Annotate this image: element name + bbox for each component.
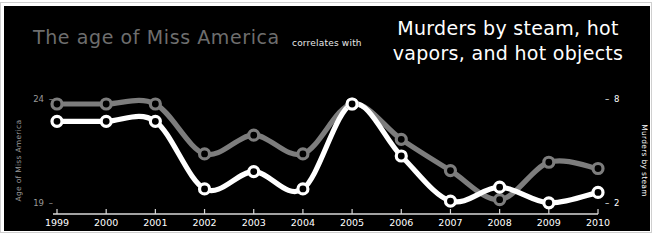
- data-point-age-2010: [593, 163, 603, 173]
- data-point-murders-2004: [298, 184, 308, 194]
- data-point-age-2002: [200, 149, 210, 159]
- data-point-murders-2007: [445, 196, 455, 206]
- x-axis-ticks: [57, 209, 598, 214]
- x-axis-label-1999: 1999: [37, 217, 77, 228]
- x-axis-label-2004: 2004: [283, 217, 323, 228]
- data-point-age-2009: [544, 157, 554, 167]
- data-point-murders-2006: [396, 151, 406, 161]
- data-point-age-2004: [298, 149, 308, 159]
- data-point-murders-2000: [101, 116, 111, 126]
- data-point-age-2000: [101, 99, 111, 109]
- data-point-murders-2001: [150, 116, 160, 126]
- data-point-murders-2009: [544, 198, 554, 208]
- data-point-age-2008: [495, 195, 505, 205]
- x-axis-label-2003: 2003: [234, 217, 274, 228]
- x-axis-label-2007: 2007: [430, 217, 470, 228]
- chart-panel: The age of Miss America correlates with …: [4, 6, 650, 231]
- x-axis-label-2006: 2006: [381, 217, 421, 228]
- x-axis-label-2000: 2000: [86, 217, 126, 228]
- data-point-murders-1999: [52, 116, 62, 126]
- x-axis-label-2001: 2001: [135, 217, 175, 228]
- data-point-age-2001: [150, 99, 160, 109]
- data-point-age-2007: [445, 166, 455, 176]
- x-axis-label-2010: 2010: [578, 217, 618, 228]
- data-point-murders-2008: [495, 182, 505, 192]
- data-point-murders-2010: [593, 187, 603, 197]
- data-point-age-2003: [249, 130, 259, 140]
- chart-page: The age of Miss America correlates with …: [0, 0, 654, 245]
- data-point-murders-2005: [347, 99, 357, 109]
- data-point-murders-2003: [249, 167, 259, 177]
- x-axis-label-2005: 2005: [332, 217, 372, 228]
- data-point-age-1999: [52, 99, 62, 109]
- x-axis-label-2009: 2009: [529, 217, 569, 228]
- plot-area: [4, 6, 650, 231]
- x-axis-label-2002: 2002: [185, 217, 225, 228]
- data-point-murders-2002: [200, 184, 210, 194]
- x-axis-label-2008: 2008: [480, 217, 520, 228]
- data-point-age-2006: [396, 134, 406, 144]
